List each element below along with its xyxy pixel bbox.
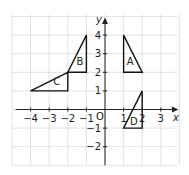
triangle-label-a: A bbox=[127, 56, 134, 67]
y-tick-label: −1 bbox=[86, 123, 101, 134]
x-tick-label: −3 bbox=[42, 113, 57, 124]
y-axis-arrow-icon bbox=[102, 17, 108, 24]
x-tick-label: 3 bbox=[158, 113, 164, 124]
origin-label: O bbox=[96, 111, 104, 122]
x-tick-label: 1 bbox=[120, 113, 126, 124]
y-tick-label: 2 bbox=[95, 67, 101, 78]
triangle-label-d: D bbox=[130, 116, 138, 127]
y-tick-label: −2 bbox=[86, 141, 101, 152]
y-tick-label: 3 bbox=[95, 48, 101, 59]
y-tick-label: 4 bbox=[95, 30, 101, 41]
x-axis-label: x bbox=[172, 112, 179, 123]
x-tick-label: −4 bbox=[23, 113, 38, 124]
triangle-label-b: B bbox=[76, 56, 83, 67]
y-axis-label: y bbox=[95, 14, 103, 25]
coordinate-grid: xyO−4−3−2−11234321−1−2ABCD bbox=[0, 0, 189, 175]
x-tick-label: −2 bbox=[60, 113, 75, 124]
y-tick-label: 1 bbox=[95, 85, 101, 96]
triangle-label-c: C bbox=[53, 76, 60, 87]
